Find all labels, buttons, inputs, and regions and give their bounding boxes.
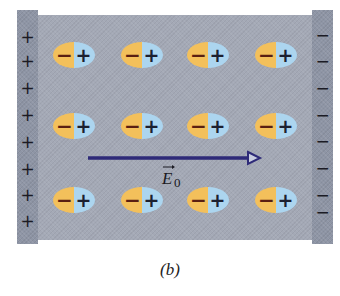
field-arrow-icon [0,0,340,296]
field-symbol: E [162,169,172,189]
field-subscript: 0 [174,175,181,191]
figure-caption: (b) [140,260,200,280]
field-label: E 0 [160,164,190,190]
